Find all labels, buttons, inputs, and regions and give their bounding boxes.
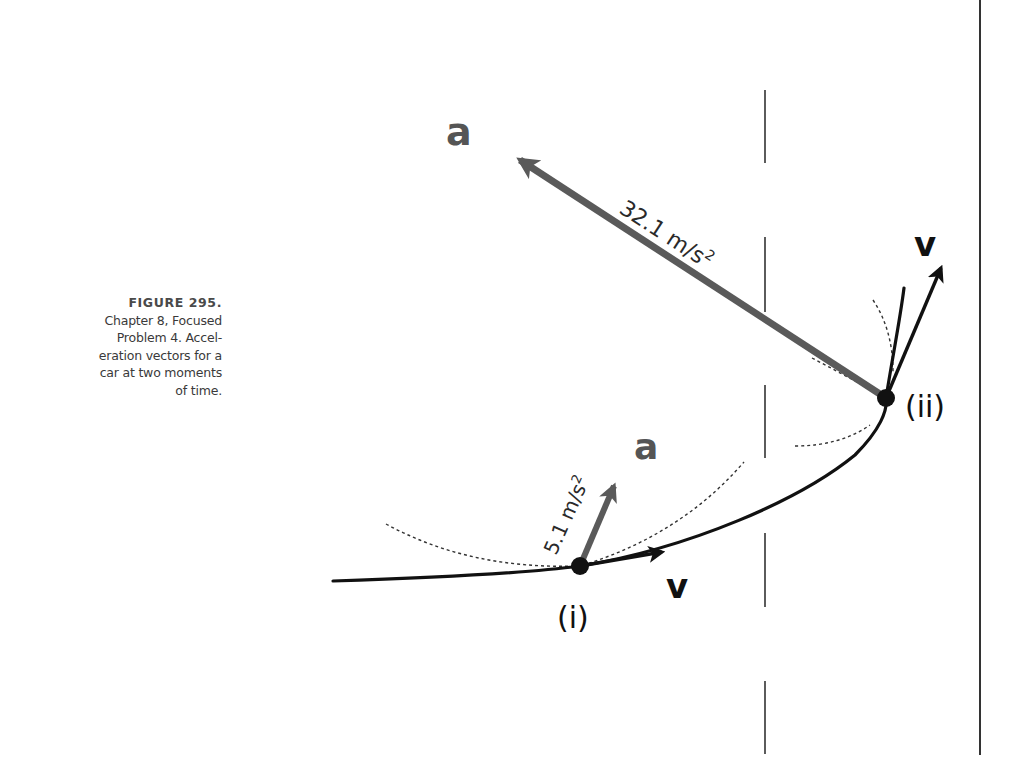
curvature-circle-ii-arc xyxy=(873,300,893,372)
velocity-vector-ii xyxy=(886,268,941,398)
acceleration-label-i: a xyxy=(634,426,658,467)
motion-diagram: a 32.1 m/s2 v (ii) a 5.1 m/s2 v (i) xyxy=(0,0,1019,779)
velocity-vector-i xyxy=(580,552,662,566)
point-i-label: (i) xyxy=(557,600,589,635)
velocity-label-ii: v xyxy=(914,224,936,264)
acceleration-vector-ii xyxy=(520,160,886,398)
velocity-label-i: v xyxy=(666,566,688,606)
curvature-circle-ii-lower xyxy=(795,425,870,446)
acceleration-magnitude-i-value: 5.1 m/s xyxy=(539,480,591,558)
point-i-marker xyxy=(571,557,589,575)
acceleration-label-ii: a xyxy=(446,110,472,154)
point-ii-label: (ii) xyxy=(905,389,945,424)
point-ii-marker xyxy=(877,389,895,407)
car-trajectory-path xyxy=(333,288,904,581)
